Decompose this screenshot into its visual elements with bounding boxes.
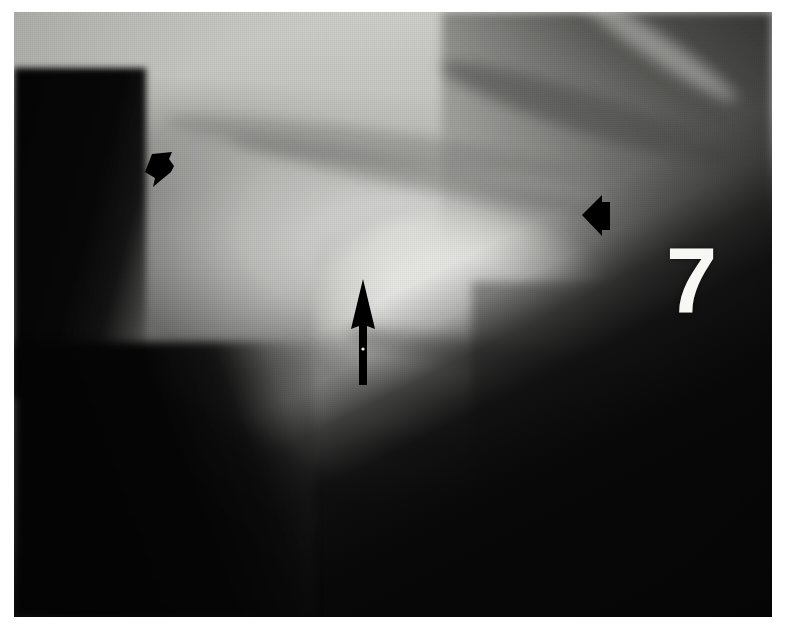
radiograph-image: 7	[14, 12, 772, 617]
arrowhead-right-icon	[578, 190, 616, 240]
page-margin-bottom	[0, 617, 793, 638]
page-margin-top	[0, 0, 793, 12]
vignette	[14, 12, 772, 617]
page-margin-left	[0, 0, 14, 638]
figure-number-label: 7	[666, 234, 715, 326]
page-margin-right	[772, 0, 793, 638]
figure-root: 7	[0, 0, 793, 638]
arrowhead-left-icon	[138, 142, 178, 192]
arrow-up-icon	[348, 277, 378, 387]
